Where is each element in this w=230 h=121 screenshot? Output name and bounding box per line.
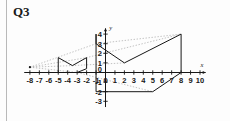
- x-axis-tick-label: -6: [45, 76, 52, 85]
- x-axis-tick-label: 6: [160, 76, 164, 85]
- x-axis-label: x: [199, 61, 203, 68]
- coordinate-plot: -8-7-6-5-4-3-2-1012345678910-3-2-112340 …: [0, 0, 230, 121]
- x-axis-tick-label: 3: [132, 76, 136, 85]
- y-axis-tick-label: -3: [95, 97, 102, 106]
- axis-name-labels-layer: yx: [108, 24, 203, 68]
- x-axis-tick-label: 4: [141, 76, 146, 85]
- x-axis-tick-label: 8: [179, 76, 183, 85]
- tick-labels-layer: -8-7-6-5-4-3-2-1012345678910-3-2-112340: [27, 30, 205, 106]
- x-axis-arrowhead: [203, 71, 206, 74]
- y-axis-label: y: [108, 24, 112, 31]
- x-axis-tick-label: 9: [188, 76, 192, 85]
- x-axis-tick-label: -2: [83, 76, 90, 85]
- enlargement-ray-middle: [30, 63, 125, 67]
- x-axis-tick-label: 1: [113, 76, 117, 85]
- x-axis-tick-label: -4: [64, 76, 71, 85]
- y-axis-tick-label: 4: [98, 30, 103, 39]
- x-axis-tick-label: -8: [27, 76, 34, 85]
- center-of-enlargement-point: [29, 66, 31, 68]
- x-axis-tick-label: 0: [103, 76, 107, 85]
- screenshot-root: Q3 -8-7-6-5-4-3-2-1012345678910-3-2-1123…: [0, 0, 230, 121]
- axes-layer: [24, 28, 205, 107]
- origin-label: 0: [98, 65, 102, 74]
- large-arrow-shape: [96, 34, 181, 92]
- y-axis-tick-label: 2: [98, 49, 102, 58]
- x-axis-tick-label: -7: [36, 76, 43, 85]
- x-axis-tick-label: 5: [151, 76, 155, 85]
- x-axis-tick-label: 2: [122, 76, 126, 85]
- x-axis-tick-label: -3: [74, 76, 81, 85]
- x-axis-tick-label: 10: [196, 76, 204, 85]
- x-axis-tick-label: -5: [55, 76, 62, 85]
- y-axis-arrowhead: [104, 28, 107, 31]
